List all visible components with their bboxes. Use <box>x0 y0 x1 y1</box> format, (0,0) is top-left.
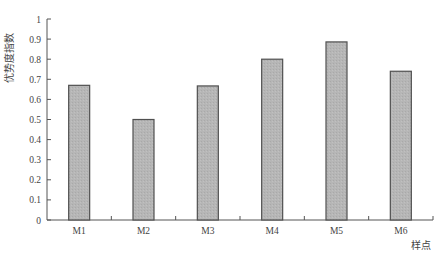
x-tick-label: M2 <box>137 226 150 236</box>
x-tick-label: M4 <box>266 226 279 236</box>
y-tick-label: 0.2 <box>29 175 41 185</box>
y-tick-label: 0.5 <box>29 115 41 125</box>
x-tick-label: M3 <box>201 226 214 236</box>
bar-m1 <box>69 85 90 220</box>
y-tick-label: 0.6 <box>29 95 41 105</box>
x-tick-label: M1 <box>73 226 86 236</box>
bar-m4 <box>262 59 283 220</box>
y-tick-label: 0.3 <box>29 155 41 165</box>
x-tick-label: M5 <box>330 226 343 236</box>
x-axis-title: 样点 <box>411 239 431 251</box>
x-axis: M1M2M3M4M5M6 <box>47 216 433 236</box>
bars <box>69 42 412 220</box>
y-tick-label: 0 <box>36 216 41 226</box>
y-tick-label: 0.1 <box>29 195 41 205</box>
y-tick-label: 0.4 <box>29 135 41 145</box>
y-axis-title: 优势度指数 <box>3 33 15 83</box>
x-tick-label: M6 <box>394 226 407 236</box>
bar-m5 <box>326 42 347 220</box>
y-tick-label: 1 <box>36 15 41 25</box>
bar-chart: 00.10.20.30.40.50.60.70.80.91 M1M2M3M4M5… <box>0 0 442 259</box>
y-axis: 00.10.20.30.40.50.60.70.80.91 <box>29 15 51 226</box>
y-tick-label: 0.9 <box>29 35 41 45</box>
y-tick-label: 0.8 <box>29 55 41 65</box>
bar-m3 <box>197 86 218 220</box>
y-tick-label: 0.7 <box>29 75 41 85</box>
bar-m2 <box>133 120 154 221</box>
bar-m6 <box>390 71 411 220</box>
